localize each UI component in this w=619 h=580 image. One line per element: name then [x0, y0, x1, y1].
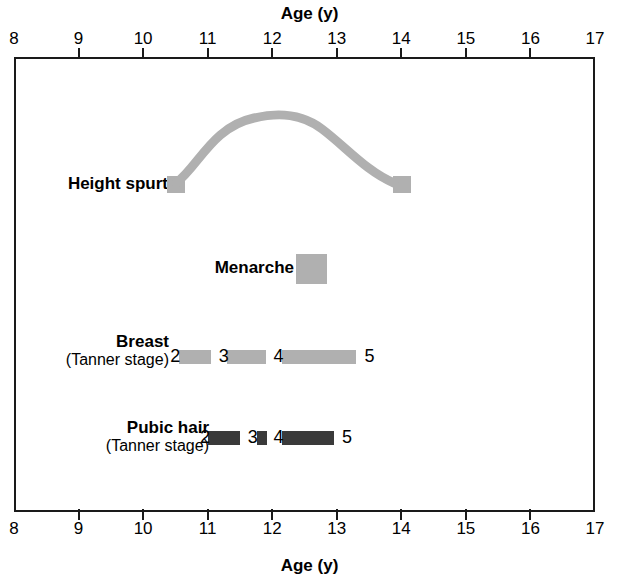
- x-tick-label-top-13: 13: [317, 28, 357, 50]
- x-tick-mark-bottom-12: [271, 509, 273, 520]
- x-tick-mark-bottom-10: [142, 509, 144, 520]
- row-label-menarche: Menarche: [215, 258, 294, 277]
- breast-segment-2: [227, 350, 266, 364]
- row-label-pubic-hair: Pubic hair (Tanner stage): [106, 418, 209, 455]
- breast-segment-3: [282, 350, 356, 364]
- x-axis-tick-labels-top: 891011121314151617: [0, 28, 619, 50]
- puberty-timeline-chart: Age (y) 891011121314151617 8910111213141…: [0, 0, 619, 580]
- x-tick-label-bottom-17: 17: [575, 518, 615, 540]
- pubic-hair-stage-label-2: 2: [200, 428, 210, 446]
- x-tick-mark-top-16: [529, 48, 531, 59]
- x-tick-label-top-17: 17: [575, 28, 615, 50]
- x-tick-label-bottom-10: 10: [123, 518, 163, 540]
- breast-segment-1: [179, 350, 211, 364]
- row-label-menarche-line1: Menarche: [215, 258, 294, 277]
- pubic-hair-segment-1: [208, 431, 240, 445]
- x-tick-label-bottom-11: 11: [188, 518, 228, 540]
- row-label-breast: Breast (Tanner stage): [66, 332, 169, 369]
- pubic-hair-stage-label-3: 3: [248, 428, 258, 446]
- x-tick-label-top-14: 14: [381, 28, 421, 50]
- chart-title-top: Age (y): [0, 4, 619, 24]
- pubic-hair-segment-2: [257, 431, 267, 445]
- breast-stage-label-5: 5: [365, 347, 375, 365]
- chart-title-bottom: Age (y): [0, 556, 619, 576]
- x-tick-label-top-11: 11: [188, 28, 228, 50]
- height-spurt-curve: [150, 105, 440, 200]
- pubic-hair-segment-3: [282, 431, 334, 445]
- x-tick-mark-bottom-9: [78, 509, 80, 520]
- breast-stage-label-3: 3: [219, 347, 229, 365]
- row-label-pubic-hair-line2: (Tanner stage): [106, 437, 209, 455]
- x-tick-mark-top-14: [400, 48, 402, 59]
- x-tick-mark-top-11: [207, 48, 209, 59]
- x-tick-label-bottom-14: 14: [381, 518, 421, 540]
- breast-stage-label-4: 4: [274, 347, 284, 365]
- x-tick-label-bottom-8: 8: [0, 518, 34, 540]
- x-tick-label-top-15: 15: [446, 28, 486, 50]
- x-tick-label-bottom-16: 16: [510, 518, 550, 540]
- x-tick-mark-top-15: [465, 48, 467, 59]
- x-axis-tick-labels-bottom: 891011121314151617: [0, 518, 619, 540]
- x-tick-label-top-10: 10: [123, 28, 163, 50]
- pubic-hair-stage-label-4: 4: [274, 428, 284, 446]
- x-tick-mark-top-9: [78, 48, 80, 59]
- x-tick-label-top-16: 16: [510, 28, 550, 50]
- x-tick-label-top-8: 8: [0, 28, 34, 50]
- breast-stage-label-2: 2: [170, 347, 180, 365]
- row-label-breast-line1: Breast: [66, 332, 169, 351]
- row-label-pubic-hair-line1: Pubic hair: [106, 418, 209, 437]
- x-tick-mark-top-10: [142, 48, 144, 59]
- menarche-block: [296, 254, 327, 284]
- x-tick-label-bottom-15: 15: [446, 518, 486, 540]
- x-tick-mark-bottom-16: [529, 509, 531, 520]
- x-tick-label-top-12: 12: [252, 28, 292, 50]
- x-tick-label-bottom-13: 13: [317, 518, 357, 540]
- x-tick-mark-bottom-11: [207, 509, 209, 520]
- x-tick-label-top-9: 9: [59, 28, 99, 50]
- row-label-breast-line2: (Tanner stage): [66, 351, 169, 369]
- x-tick-mark-top-13: [336, 48, 338, 59]
- x-tick-mark-bottom-15: [465, 509, 467, 520]
- x-tick-mark-top-12: [271, 48, 273, 59]
- x-tick-mark-bottom-13: [336, 509, 338, 520]
- x-tick-label-bottom-9: 9: [59, 518, 99, 540]
- pubic-hair-stage-label-5: 5: [342, 428, 352, 446]
- x-tick-label-bottom-12: 12: [252, 518, 292, 540]
- x-tick-mark-bottom-14: [400, 509, 402, 520]
